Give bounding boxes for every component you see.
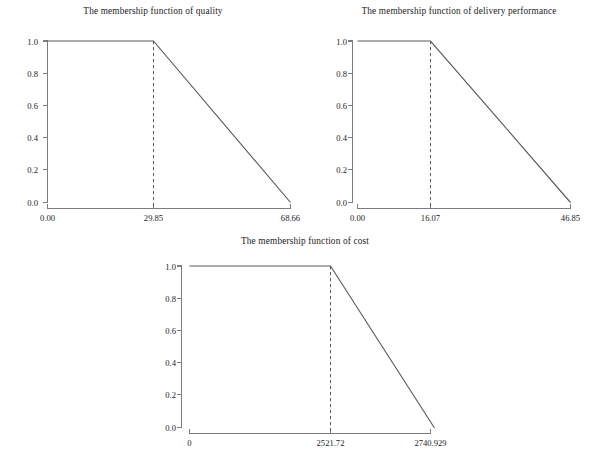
x-axis-ticks: [190, 429, 431, 434]
y-axis-ticks: [348, 41, 353, 203]
xtick-label: 0: [187, 438, 191, 448]
xtick-label: 16.07: [421, 213, 441, 223]
ytick-label: 1.0: [165, 262, 176, 272]
ytick-label: 0.4: [27, 133, 38, 143]
chart-plot-delivery-performance: 1.0 0.8 0.6 0.4 0.2 0.0 0.00 16.07 46.85: [306, 6, 612, 231]
xtick-label: 2521.72: [317, 438, 345, 448]
ytick-label: 1.0: [336, 37, 347, 47]
ytick-label: 0.8: [165, 294, 176, 304]
ytick-label: 0.6: [165, 326, 176, 336]
ytick-label: 0.6: [27, 101, 38, 111]
ytick-label: 0.6: [336, 101, 347, 111]
ytick-label: 0.0: [27, 198, 38, 208]
chart-panel-quality: The membership function of quality 1.0 0…: [0, 6, 306, 231]
ytick-label: 0.4: [336, 133, 347, 143]
membership-function-curve: [190, 266, 435, 428]
membership-function-curve: [358, 41, 571, 203]
xtick-label: 0.00: [40, 213, 55, 223]
ytick-label: 0.2: [27, 165, 38, 175]
x-axis-ticks: [358, 204, 571, 209]
y-axis-ticks: [177, 266, 182, 428]
chart-panel-delivery-performance: The membership function of delivery perf…: [306, 6, 612, 231]
ytick-label: 0.4: [165, 358, 176, 368]
ytick-label: 0.0: [336, 198, 347, 208]
x-axis-ticks: [48, 204, 291, 209]
ytick-label: 0.8: [336, 69, 347, 79]
ytick-label: 0.8: [27, 69, 38, 79]
ytick-label: 1.0: [27, 37, 38, 47]
ytick-label: 0.2: [336, 165, 347, 175]
membership-function-curve: [48, 41, 291, 203]
xtick-label: 2740.929: [414, 438, 446, 448]
ytick-label: 0.0: [165, 423, 176, 433]
xtick-label: 46.85: [561, 213, 580, 223]
xtick-label: 68.66: [281, 213, 301, 223]
xtick-label: 29.85: [144, 213, 163, 223]
y-axis-ticks: [43, 41, 48, 203]
chart-plot-cost: 1.0 0.8 0.6 0.4 0.2 0.0 0 2521.72 2740.9…: [140, 236, 470, 462]
membership-functions-figure: The membership function of quality 1.0 0…: [0, 0, 612, 462]
ytick-label: 0.2: [165, 390, 176, 400]
xtick-label: 0.00: [350, 213, 365, 223]
chart-panel-cost: The membership function of cost 1.0 0.8 …: [140, 236, 470, 462]
chart-plot-quality: 1.0 0.8 0.6 0.4 0.2 0.0 0.00 29.85 68.66: [0, 6, 306, 231]
